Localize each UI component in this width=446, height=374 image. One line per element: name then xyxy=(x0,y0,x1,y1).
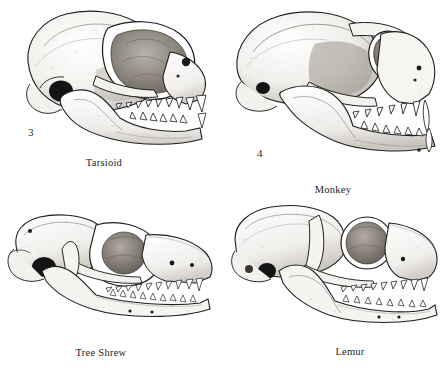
lemur-rostrum xyxy=(385,223,437,281)
monkey-maxilla xyxy=(377,32,435,104)
specimen-number-tarsioid: 3 xyxy=(28,127,34,138)
lemur-lower-teeth xyxy=(343,295,426,307)
monkey-auditory-meatus xyxy=(256,82,270,94)
specimen-monkey: 4 Monkey xyxy=(223,0,446,200)
monkey-infraorbital-foramen xyxy=(417,66,422,71)
specimen-lemur: 2 Lemur xyxy=(223,187,446,374)
specimen-number-monkey: 4 xyxy=(257,148,263,159)
skull-icon-lemur xyxy=(223,187,446,347)
lemur-orbit xyxy=(346,222,388,264)
tarsioid-lower-teeth xyxy=(130,112,206,128)
specimen-caption-lemur: Lemur xyxy=(250,347,446,358)
specimen-caption-tarsioid: Tarsioid xyxy=(4,158,204,169)
skull-icon-tree-shrew xyxy=(0,187,223,347)
tree-shrew-orbit xyxy=(102,232,146,274)
specimen-caption-tree-shrew: Tree Shrew xyxy=(1,348,201,359)
figure-plate: 3 Tarsioid xyxy=(0,0,446,374)
specimen-tree-shrew: 1 Tree Shrew xyxy=(0,187,223,374)
specimen-tarsioid: 3 Tarsioid xyxy=(0,0,223,187)
tarsioid-infraorbital-foramen xyxy=(182,58,190,66)
lemur-infraorbital-foramen xyxy=(401,257,405,261)
tree-shrew-foramen xyxy=(28,229,32,233)
tree-shrew-lower-teeth xyxy=(110,289,196,302)
